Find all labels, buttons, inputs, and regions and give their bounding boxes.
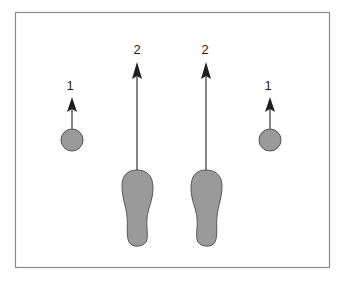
left-ball [61,129,83,151]
right-ball-label: 1 [264,78,271,93]
diagram-canvas: 1 1 2 2 [0,0,341,290]
right-ball [259,129,281,151]
left-foot-label: 2 [133,42,140,57]
left-ball-label: 1 [66,78,73,93]
right-foot-label: 2 [201,42,208,57]
